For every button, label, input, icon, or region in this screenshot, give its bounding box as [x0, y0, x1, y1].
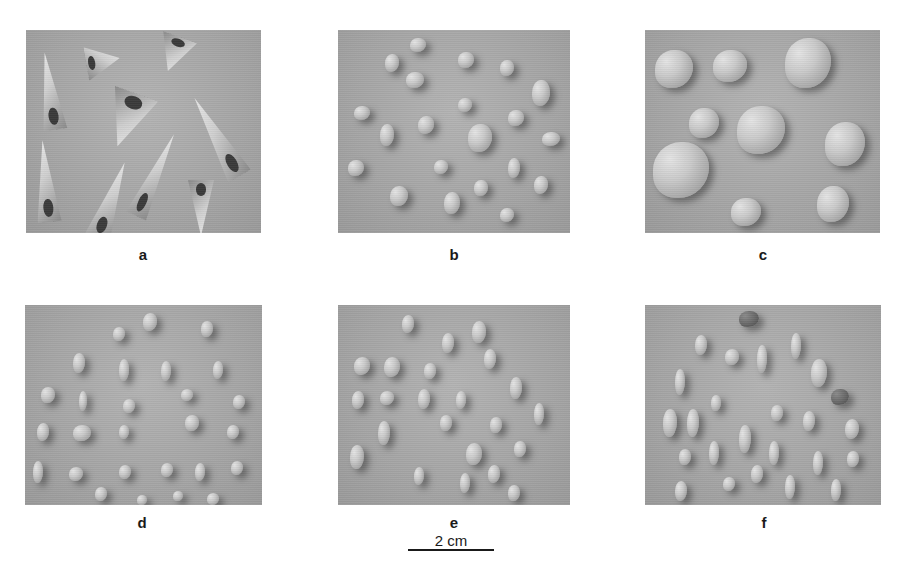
grain — [161, 463, 173, 477]
grain — [69, 467, 83, 481]
grain — [508, 110, 524, 126]
grain — [751, 465, 763, 483]
grain — [655, 50, 693, 88]
grain — [725, 349, 739, 365]
grain — [534, 403, 544, 425]
grain — [474, 180, 488, 196]
panel-c-label: c — [743, 246, 783, 263]
panel-e-image — [338, 305, 570, 505]
grain — [434, 160, 448, 174]
panel-a-label: a — [123, 246, 163, 263]
grain — [785, 38, 831, 88]
grain — [406, 72, 424, 88]
grain — [181, 389, 193, 401]
grain — [231, 461, 243, 475]
grain — [532, 80, 550, 106]
grain — [227, 425, 239, 439]
grain — [468, 124, 492, 152]
grain — [687, 409, 699, 437]
shell — [188, 180, 214, 233]
grain — [201, 321, 213, 337]
grain — [831, 389, 849, 405]
grain — [510, 377, 522, 399]
grain — [440, 415, 452, 431]
grain — [484, 349, 496, 369]
grain — [354, 357, 370, 375]
grain — [173, 491, 183, 501]
grain — [73, 353, 85, 373]
grain — [348, 160, 364, 176]
panel-d-image — [25, 305, 262, 505]
grain — [207, 493, 219, 505]
grain — [378, 421, 390, 445]
grain — [675, 481, 687, 501]
grain — [119, 465, 131, 479]
grain — [458, 52, 474, 68]
grain — [739, 425, 751, 453]
shell — [30, 139, 61, 223]
grain — [390, 186, 408, 206]
shell — [96, 86, 158, 154]
grain — [380, 391, 394, 405]
shell — [151, 31, 197, 77]
grain — [466, 443, 482, 465]
grain — [663, 409, 677, 437]
grain — [73, 425, 91, 441]
scale-bar-label: 2 cm — [408, 532, 494, 549]
grain — [811, 359, 827, 387]
grain — [689, 108, 719, 138]
grain — [508, 158, 520, 178]
grain — [534, 176, 548, 194]
grain — [713, 50, 747, 82]
grain — [508, 485, 520, 501]
grain — [679, 449, 691, 465]
grain — [119, 359, 129, 381]
grain — [123, 399, 135, 413]
grain — [119, 425, 129, 439]
grain — [791, 333, 801, 359]
grain — [418, 389, 430, 409]
grain — [460, 473, 470, 493]
grain — [113, 327, 125, 341]
grain — [847, 451, 859, 467]
shell-aperture — [196, 183, 206, 195]
grain — [769, 441, 779, 465]
shell-aperture — [222, 152, 241, 174]
grain — [731, 198, 761, 226]
grain — [213, 361, 223, 379]
grain — [418, 116, 434, 134]
shell — [126, 130, 184, 221]
grain — [488, 465, 500, 483]
grain — [723, 477, 735, 491]
grain — [350, 445, 364, 469]
grain — [161, 361, 171, 381]
grain — [414, 467, 424, 485]
grain — [137, 495, 147, 505]
grain — [825, 122, 865, 166]
shell-aperture — [170, 37, 186, 49]
panel-c-image — [645, 30, 880, 233]
grain — [354, 106, 370, 120]
shell-aperture — [94, 215, 110, 233]
grain — [37, 423, 49, 441]
shell — [183, 92, 251, 183]
shell — [83, 41, 122, 80]
grain — [490, 417, 502, 433]
grain — [95, 487, 107, 501]
grain — [384, 357, 400, 377]
grain — [195, 463, 205, 481]
shell — [85, 158, 137, 233]
grain — [233, 395, 245, 409]
grain — [472, 321, 486, 343]
shell — [33, 51, 68, 132]
grain — [41, 387, 55, 403]
grain — [79, 391, 87, 411]
grain — [185, 415, 199, 431]
shell-aperture — [87, 56, 97, 71]
grain — [845, 419, 859, 439]
scale-bar — [408, 549, 494, 551]
grain — [675, 369, 685, 395]
grain — [143, 313, 157, 331]
grain — [542, 132, 560, 146]
panel-e-label: e — [434, 514, 474, 531]
